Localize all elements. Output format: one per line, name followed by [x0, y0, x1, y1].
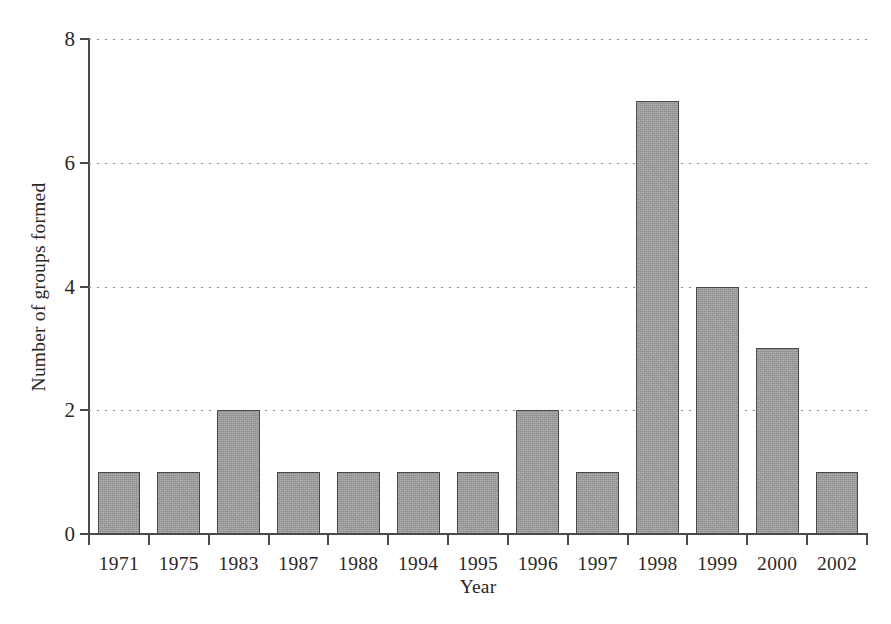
- y-axis-tick-label: 4: [65, 274, 76, 299]
- x-axis-tick: [507, 534, 509, 545]
- bar: [157, 472, 200, 534]
- x-axis-tick-label: 1995: [458, 553, 498, 575]
- x-axis-tick: [268, 534, 270, 545]
- bar: [696, 287, 739, 535]
- bar-chart-figure: Number of groups formed 02468 1971197519…: [0, 0, 891, 624]
- bar: [576, 472, 619, 534]
- bar: [457, 472, 500, 534]
- y-axis-tick-label: 0: [65, 522, 76, 547]
- gridline: [89, 287, 867, 288]
- x-axis-tick-label: 1975: [159, 553, 199, 575]
- x-axis-tick: [208, 534, 210, 545]
- y-axis-tick: [80, 38, 89, 40]
- x-axis-tick: [447, 534, 449, 545]
- x-axis-tick: [686, 534, 688, 545]
- bar: [756, 348, 799, 534]
- x-axis-tick: [327, 534, 329, 545]
- x-axis-tick-label: 1997: [578, 553, 618, 575]
- bar: [217, 410, 260, 534]
- y-axis-tick: [80, 409, 89, 411]
- y-axis-title: Number of groups formed: [22, 39, 56, 535]
- y-axis-tick-label: 2: [65, 398, 76, 423]
- y-axis-tick: [80, 162, 89, 164]
- x-axis-tick: [88, 534, 90, 545]
- y-axis-tick-label: 6: [65, 150, 76, 175]
- x-axis-tick: [567, 534, 569, 545]
- bar: [816, 472, 859, 534]
- bar: [98, 472, 141, 534]
- gridline: [89, 410, 867, 411]
- bar: [516, 410, 559, 534]
- x-axis-title: Year: [89, 576, 867, 598]
- x-axis-tick-label: 1996: [518, 553, 558, 575]
- bar: [636, 101, 679, 534]
- plot-area: 02468 1971197519831987198819941995199619…: [89, 39, 867, 534]
- x-axis-tick: [148, 534, 150, 545]
- y-axis-tick: [80, 286, 89, 288]
- x-axis-tick-label: 1999: [697, 553, 737, 575]
- y-axis-tick-label: 8: [65, 27, 76, 52]
- x-axis-tick: [387, 534, 389, 545]
- x-axis-tick: [866, 534, 868, 545]
- x-axis-tick-label: 1987: [278, 553, 318, 575]
- x-axis-tick-label: 1988: [338, 553, 378, 575]
- x-axis-tick-label: 1994: [398, 553, 438, 575]
- bar: [277, 472, 320, 534]
- gridline: [89, 39, 867, 40]
- bar: [337, 472, 380, 534]
- bar: [397, 472, 440, 534]
- x-axis-tick: [746, 534, 748, 545]
- x-axis-tick-label: 2002: [817, 553, 857, 575]
- x-axis-tick-label: 1971: [99, 553, 139, 575]
- x-axis-tick: [627, 534, 629, 545]
- gridline: [89, 163, 867, 164]
- x-axis-tick-label: 1983: [219, 553, 259, 575]
- x-axis-tick-label: 1998: [637, 553, 677, 575]
- x-axis-tick-label: 2000: [757, 553, 797, 575]
- x-axis-tick: [806, 534, 808, 545]
